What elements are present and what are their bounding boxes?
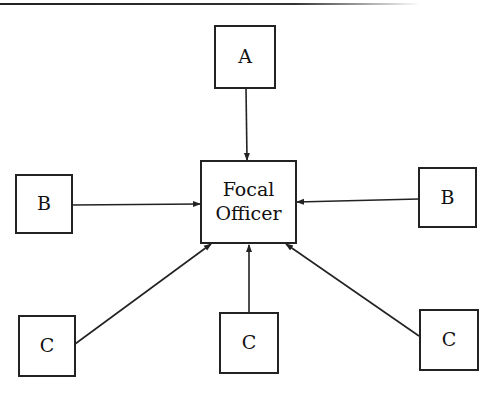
focal-label-line1: Focal <box>223 178 275 202</box>
node-c-right: C <box>419 309 479 371</box>
edge-cright-focal <box>286 244 419 336</box>
node-c-right-label: C <box>442 328 457 352</box>
focal-label-line2: Officer <box>215 202 281 226</box>
node-a: A <box>214 25 276 89</box>
node-b-left: B <box>15 174 73 234</box>
node-b-left-label: B <box>37 192 51 216</box>
edge-bleft-focal <box>72 204 200 205</box>
edge-a-focal <box>246 88 247 160</box>
node-c-left-label: C <box>40 334 55 358</box>
node-focal-officer: Focal Officer <box>200 160 297 244</box>
node-c-center: C <box>219 312 279 374</box>
node-b-right-label: B <box>441 186 455 210</box>
edge-bright-focal <box>297 199 419 202</box>
node-b-right: B <box>418 167 477 228</box>
node-c-center-label: C <box>242 331 257 355</box>
node-c-left: C <box>18 315 76 377</box>
node-a-label: A <box>238 45 252 69</box>
edge-cleft-focal <box>75 244 211 344</box>
